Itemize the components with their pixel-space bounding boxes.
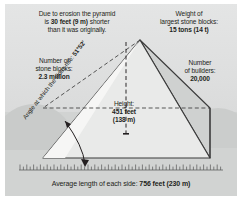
pyramid-infographic: Due to erosion the pyramid is 30 feet (9… xyxy=(0,0,242,203)
infographic-panel: Due to erosion the pyramid is 30 feet (9… xyxy=(5,4,237,196)
erosion-line2-post: shorter xyxy=(88,18,110,25)
erosion-line3: than it was originally. xyxy=(48,26,106,33)
erosion-value: 30 feet (9 m) xyxy=(51,18,88,25)
erosion-label: Due to erosion the pyramid is 30 feet (9… xyxy=(25,10,129,35)
height-label: Height: 451 feet (138 m) xyxy=(101,100,147,125)
height-line1: Height: xyxy=(114,100,134,107)
height-value-meters: (138 m) xyxy=(113,116,135,123)
builders-value: 20,000 xyxy=(190,75,210,82)
builders-line1: Number xyxy=(189,59,212,66)
height-line-foot-tick xyxy=(123,133,129,135)
builders-label: Number of builders: 20,000 xyxy=(167,59,233,84)
base-length-label: Average length of each side: 756 feet (2… xyxy=(5,180,237,188)
weight-line1: Weight of xyxy=(176,10,203,17)
weight-value: 15 tons (14 t) xyxy=(169,26,208,33)
builders-line2: of builders: xyxy=(184,67,215,74)
base-text: Average length of each side: xyxy=(52,180,140,187)
weight-label: Weight of largest stone blocks: 15 tons … xyxy=(143,10,235,35)
erosion-line1: Due to erosion the pyramid xyxy=(39,10,116,17)
baseline-ticks xyxy=(20,165,221,171)
height-value-feet: 451 feet xyxy=(112,108,136,115)
base-value: 756 feet (230 m) xyxy=(139,180,190,187)
weight-line2: largest stone blocks: xyxy=(160,18,218,25)
